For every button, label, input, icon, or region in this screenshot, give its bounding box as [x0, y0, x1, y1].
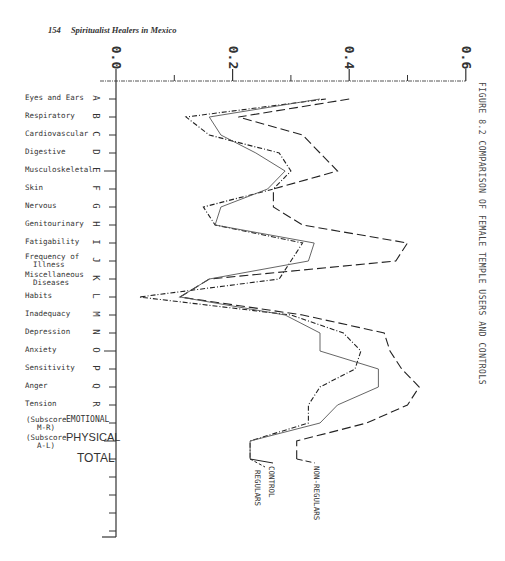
legend-regulars: REGULARS	[253, 470, 262, 506]
leader-control	[250, 459, 273, 463]
leader-non-regulars	[297, 459, 315, 463]
legend-non-regulars: NON-REGULARS	[312, 466, 321, 520]
series-control	[139, 99, 361, 459]
legend-control: CONTROL	[267, 466, 276, 498]
series-non-regulars	[180, 99, 419, 459]
